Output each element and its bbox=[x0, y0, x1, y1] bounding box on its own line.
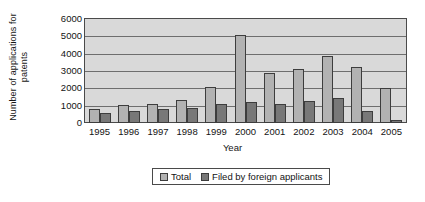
bar-total bbox=[322, 56, 333, 123]
x-axis-title: Year bbox=[0, 142, 425, 153]
x-axis-tick-label: 2000 bbox=[231, 126, 260, 137]
bar-group bbox=[89, 19, 111, 123]
bar-foreign bbox=[304, 101, 315, 123]
x-axis-tick-label: 2003 bbox=[318, 126, 347, 137]
y-axis-tick-labels: 6000500040003000200010000 bbox=[42, 18, 82, 123]
bar-foreign bbox=[100, 113, 111, 123]
bar-total bbox=[147, 104, 158, 123]
y-axis-tick-label: 1000 bbox=[48, 101, 82, 111]
bar-group bbox=[176, 19, 198, 123]
x-axis-tick-label: 2004 bbox=[348, 126, 377, 137]
bar-total bbox=[351, 67, 362, 123]
legend-item: Total bbox=[160, 172, 191, 182]
x-axis-tick-label: 1995 bbox=[85, 126, 114, 137]
bar-group bbox=[264, 19, 286, 123]
bar-total bbox=[380, 88, 391, 123]
bar-foreign bbox=[187, 108, 198, 123]
bar-foreign bbox=[129, 111, 140, 123]
legend-swatch-icon bbox=[160, 173, 168, 181]
y-axis-title: Number of applications for patents bbox=[8, 2, 30, 132]
y-axis-tick-label: 3000 bbox=[48, 66, 82, 76]
bar-total bbox=[176, 100, 187, 123]
bar-total bbox=[89, 109, 100, 123]
y-axis-tick-label: 5000 bbox=[48, 31, 82, 41]
bar-group bbox=[205, 19, 227, 123]
bar-chart: Number of applications for patents 60005… bbox=[0, 0, 425, 202]
bar-foreign bbox=[216, 104, 227, 123]
bar-group bbox=[293, 19, 315, 123]
bars-layer bbox=[85, 19, 406, 123]
y-axis-tick-label: 0 bbox=[48, 118, 82, 128]
bar-group bbox=[351, 19, 373, 123]
x-axis-tick-label: 2005 bbox=[377, 126, 406, 137]
bar-foreign bbox=[362, 111, 373, 123]
legend-label: Filed by foreign applicants bbox=[212, 172, 322, 182]
chart-legend: TotalFiled by foreign applicants bbox=[152, 168, 330, 185]
bar-group bbox=[147, 19, 169, 123]
bar-total bbox=[293, 69, 304, 123]
bar-total bbox=[264, 73, 275, 123]
y-axis-tick-label: 6000 bbox=[48, 14, 82, 24]
bar-group bbox=[118, 19, 140, 123]
bar-foreign bbox=[275, 104, 286, 123]
bar-group bbox=[380, 19, 402, 123]
bar-total bbox=[205, 87, 216, 123]
x-axis-tick-labels: 1995199619971998199920002001200220032004… bbox=[85, 126, 406, 140]
bar-total bbox=[118, 105, 129, 123]
bar-foreign bbox=[391, 120, 402, 123]
x-axis-tick-label: 1997 bbox=[143, 126, 172, 137]
bar-group bbox=[235, 19, 257, 123]
legend-swatch-icon bbox=[201, 173, 209, 181]
x-axis-tick-label: 1999 bbox=[202, 126, 231, 137]
y-axis-tick-label: 4000 bbox=[48, 49, 82, 59]
bar-total bbox=[235, 35, 246, 123]
legend-item: Filed by foreign applicants bbox=[201, 172, 322, 182]
x-axis-tick-label: 2002 bbox=[289, 126, 318, 137]
bar-foreign bbox=[333, 98, 344, 123]
x-axis-tick-label: 1996 bbox=[114, 126, 143, 137]
y-axis-tick-label: 2000 bbox=[48, 83, 82, 93]
legend-label: Total bbox=[171, 172, 191, 182]
bar-foreign bbox=[158, 109, 169, 123]
bar-foreign bbox=[246, 102, 257, 123]
x-axis-tick-label: 2001 bbox=[260, 126, 289, 137]
x-axis-tick-label: 1998 bbox=[173, 126, 202, 137]
bar-group bbox=[322, 19, 344, 123]
